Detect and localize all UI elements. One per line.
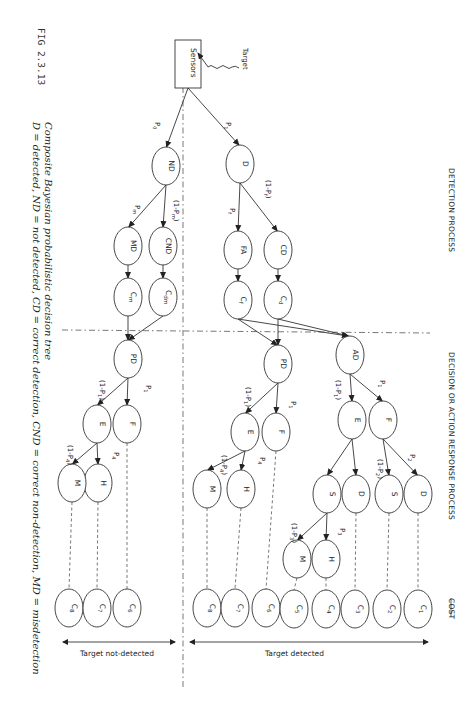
probability-label: P0 (152, 122, 161, 129)
node-s_rr: S (375, 475, 403, 513)
horizontal-divider (62, 330, 430, 333)
probability-label: (1-P1) (333, 380, 342, 400)
node-e_l: E (83, 405, 111, 443)
node-e_m: E (231, 413, 259, 451)
node-cf: Cf (224, 281, 252, 319)
node-cm: Cm (114, 278, 142, 316)
node-cnd: CND (149, 227, 177, 265)
cost-node-c7: C7 (83, 589, 111, 627)
figure-caption-legend: D = detected, ND = not detected, CD = co… (31, 121, 42, 675)
edge-e_r-d_r (352, 439, 356, 475)
edge-e_r-s_r (328, 439, 353, 475)
node-pd2: PD (264, 345, 292, 383)
figure-caption-title: Composite Bayesian probabilistic decisio… (43, 122, 54, 360)
node-h_l: H (84, 464, 112, 502)
cost-node-c4: C4 (312, 590, 340, 628)
cost-node-c2: C2 (373, 590, 401, 628)
edge-ad-f_r (350, 374, 382, 401)
cost-nodes: C8C7C6C8C7C6C5C4C3C2C1 (55, 589, 432, 628)
node-label: M (73, 480, 82, 486)
node-label: M (208, 486, 217, 492)
node-label: H (99, 480, 108, 486)
node-label: S (390, 492, 399, 497)
node-label: CD (279, 244, 288, 255)
cost-node-c5: C5 (280, 590, 308, 628)
cost-node-c8: C8 (55, 589, 83, 627)
node-cd: Cd (264, 281, 292, 319)
node-md: MD (114, 227, 142, 265)
edge-e_l-m_l (73, 443, 98, 464)
edge-cdm-pd1 (129, 316, 163, 340)
probability-label: P4 (111, 452, 120, 459)
node-label: PD (129, 354, 138, 365)
node-d_r: D (342, 475, 370, 513)
cost-connector (355, 513, 356, 590)
node-label: FA (239, 246, 248, 256)
probability-label: (1-Pm) (171, 200, 180, 222)
node-label: H (327, 556, 336, 562)
node-f_m: F (262, 413, 290, 451)
probability-label: P1 (288, 401, 297, 408)
cost-node-c1: C1 (404, 590, 432, 628)
probability-label: Pm (132, 205, 141, 214)
probability-label: (1-P2) (375, 459, 384, 479)
sensors-label: Sensors (189, 48, 198, 78)
cost-connector (387, 513, 389, 590)
probability-label: (1-P1) (97, 380, 106, 400)
probability-label: P4 (257, 457, 266, 464)
probability-label: P1 (143, 385, 152, 392)
edge-pd2-f_m (276, 383, 278, 413)
node-label: F (277, 430, 286, 434)
node-label: D (241, 161, 250, 167)
node-label: AD (351, 350, 360, 361)
edge-pd1-f_l (127, 378, 128, 405)
header-detection-process: DETECTION PROCESS (447, 168, 456, 252)
edge-s-d (188, 88, 239, 145)
node-label: E (98, 422, 107, 427)
target-detected-label: Target detected (264, 649, 324, 658)
node-pd1: PD (114, 340, 142, 378)
node-m_l: M (58, 464, 86, 502)
node-ad: AD (336, 336, 364, 374)
node-s_r: S (313, 475, 341, 513)
node-f_r: F (369, 401, 397, 439)
node-nd: ND (152, 147, 180, 185)
edge-nd-cnd (163, 185, 166, 227)
node-label: S (328, 492, 337, 497)
probability-label: Pf (227, 208, 236, 214)
node-label: F (384, 418, 393, 422)
edge-s_r-h_r (326, 513, 327, 540)
cost-connector (294, 578, 297, 590)
probability-label: (1-P4) (219, 455, 228, 475)
header-cost: COST (447, 598, 456, 620)
node-d_rr: D (404, 475, 432, 513)
cost-node-c6: C6 (252, 589, 280, 627)
probability-label: (1-P3) (289, 523, 298, 543)
node-label: H (242, 486, 251, 492)
probability-label: P3 (337, 528, 346, 535)
node-d: D (226, 145, 254, 183)
edge-s-nd (166, 88, 188, 147)
node-f_l: F (113, 405, 141, 443)
edge-s_r-m_r (298, 513, 327, 540)
cost-node-c8: C8 (193, 589, 221, 627)
decision-tree-figure: FIG 2.3.13 Composite Bayesian probabilis… (0, 0, 475, 702)
edge-cd-ad (278, 319, 349, 336)
edge-d-fa (238, 183, 240, 231)
header-decision-process: DECISION OR ACTION RESPONSE PROCESS (447, 352, 456, 520)
edge-cf-pd2 (238, 319, 277, 345)
node-label: D (357, 491, 366, 497)
cost-node-c6: C6 (113, 589, 141, 627)
node-label: F (128, 422, 137, 426)
node-label: ND (167, 160, 176, 172)
probability-label: (1-Pf) (263, 180, 272, 199)
edge-e_l-h_l (97, 443, 98, 464)
target-signal-icon (198, 53, 239, 69)
probability-label: P1 (223, 122, 232, 129)
sensors-box: Sensors (175, 40, 201, 88)
probability-label: P2 (407, 454, 416, 461)
node-label: E (246, 430, 255, 435)
cost-node-c7: C7 (221, 589, 249, 627)
target-not-detected-label: Target not-detected (79, 649, 154, 658)
probability-label: P1 (377, 380, 386, 387)
